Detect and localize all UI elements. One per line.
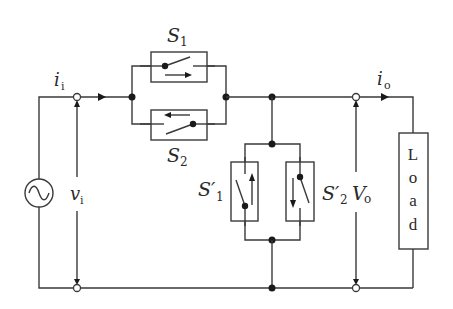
load-label-char: L: [408, 145, 418, 164]
load-label-char: a: [409, 191, 417, 210]
label-output-current: i o: [377, 68, 391, 92]
svg-text:1: 1: [180, 35, 188, 49]
circuit-diagram: L o a d i i i o v i V o S 1 S 2 S′ 1 S′ …: [0, 0, 453, 309]
switch-s1: [140, 52, 215, 82]
output-terminal-bottom: [353, 285, 360, 292]
switch-s2-prime: [286, 157, 314, 226]
svg-text:1: 1: [216, 190, 224, 204]
switch-s1-prime: [231, 157, 258, 226]
svg-text:i: i: [80, 194, 84, 207]
svg-text:i: i: [54, 69, 60, 90]
input-terminal-bottom: [74, 285, 81, 292]
svg-text:S′: S′: [322, 182, 340, 204]
svg-text:o: o: [384, 79, 391, 92]
svg-text:S′: S′: [198, 178, 216, 200]
svg-text:2: 2: [180, 155, 188, 169]
svg-text:o: o: [364, 192, 371, 206]
label-s2: S 2: [167, 144, 188, 169]
svg-text:S: S: [167, 144, 180, 166]
label-s1-prime: S′ 1: [198, 178, 224, 204]
svg-text:v: v: [70, 183, 80, 204]
input-current-arrow-icon: [98, 93, 106, 101]
svg-text:i: i: [377, 68, 383, 89]
label-s1: S 1: [167, 24, 188, 49]
output-terminal-top: [353, 94, 360, 101]
svg-text:S: S: [167, 24, 180, 46]
output-wire: [226, 97, 413, 133]
svg-text:2: 2: [340, 193, 348, 207]
ac-source-icon: [25, 179, 53, 207]
output-current-arrow-icon: [381, 93, 389, 101]
label-s2-prime: S′ 2: [322, 182, 348, 207]
load-label-char: d: [409, 215, 418, 234]
input-terminal-top: [74, 94, 81, 101]
label-input-voltage: v i: [70, 183, 84, 207]
label-input-current: i i: [54, 69, 65, 93]
load-label-char: o: [409, 168, 418, 187]
label-output-voltage: V o: [352, 182, 371, 206]
switch-s2: [140, 110, 215, 140]
svg-text:i: i: [61, 80, 65, 93]
